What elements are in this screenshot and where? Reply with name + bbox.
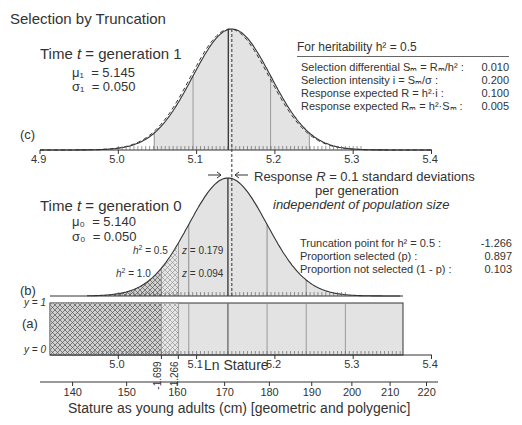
panel-c-tick-label: 5.3 [344,153,359,165]
stature-tick-label: 140 [64,386,82,398]
generation-1-label: Time t = generation 1 [40,45,182,62]
panel-a-tick-label: 5.4 [423,358,438,370]
stature-tick-label: 200 [343,386,361,398]
panel-a-tick-label: 5.0 [109,358,124,370]
row-label: Proportion not selected (1 - p) : [300,263,452,276]
panel-c-tick-label: 5.1 [188,153,203,165]
stature-tick-label: 180 [260,386,278,398]
row-value: 0.103 [484,263,512,276]
panel-a-tick-label: 5.1 [188,358,203,370]
row-value: 0.005 [481,100,509,113]
panel-c-tick-label: 5.4 [423,153,438,165]
stature-tick-label: 170 [216,386,234,398]
row-label: Response expected Rₘ = h²·Sₘ : [301,100,463,113]
truncation-tick-label: -1.699 [152,361,163,389]
stature-tick-label: 160 [168,386,186,398]
row-value: -1.266 [481,237,512,250]
sigma-0: σ₀ = 0.050 [72,229,136,244]
row-value: 0.100 [481,87,509,100]
stature-axis-label: Stature as young adults (cm) [geometric … [68,400,410,416]
h2-0.5-label: h2 = 0.5 [133,244,168,256]
chart-title: Selection by Truncation [10,10,166,27]
heritability-header: For heritability h² = 0.5 [297,40,509,57]
row-value: 0.010 [481,61,509,74]
response-line-3: independent of population size [273,197,449,212]
truncation-table: Truncation point for h² = 0.5 :-1.266Pro… [300,237,512,276]
panel-a-tick-label: 5.3 [344,358,359,370]
response-line-2: per generation [315,183,399,198]
row-value: 0.200 [481,74,509,87]
row-label: Selection intensity i = Sₘ/σ : [301,74,438,87]
panel-c-tick-label: 5.0 [109,153,124,165]
panel-a-tick-label: 5.2 [266,358,281,370]
panel-a-label: (a) [22,316,38,331]
panel-b-label: (b) [20,283,36,298]
z-0.179-label: z = 0.179 [182,245,223,256]
stature-tick-label: 190 [303,386,321,398]
heritability-row: Selection intensity i = Sₘ/σ :0.200 [301,74,509,87]
row-label: Response expected R = h²·i : [301,87,444,100]
response-line-1: Response R = 0.1 standard deviations [254,169,475,184]
heritability-row: Response expected Rₘ = h²·Sₘ :0.005 [301,100,509,113]
mu-1: μ₁ = 5.145 [72,65,135,80]
mu-0: μ₀ = 5.140 [72,214,136,229]
z-0.094-label: z = 0.094 [182,268,223,279]
row-label: Proportion selected (p) : [300,250,417,263]
stature-tick-label: 220 [418,386,436,398]
generation-0-label: Time t = generation 0 [40,197,182,214]
axes [40,382,438,386]
panel-c-label: (c) [20,127,35,142]
heritability-row: Response expected R = h²·i :0.100 [301,87,509,100]
truncation-row: Proportion selected (p) :0.897 [300,250,512,263]
ln-stature-label: Ln Stature [204,357,269,373]
y1-label: y = 1 [24,297,46,308]
heritability-row: Selection differential Sₘ = Rₘ/h² :0.010 [301,61,509,74]
stature-tick-label: 150 [118,386,136,398]
panel-c-tick-label: 4.9 [31,153,46,165]
y0-label: y = 0 [24,344,46,355]
row-label: Selection differential Sₘ = Rₘ/h² : [301,61,464,74]
row-label: Truncation point for h² = 0.5 : [300,237,441,250]
panel-c-tick-label: 5.2 [266,153,281,165]
heritability-table: For heritability h² = 0.5 Selection diff… [297,40,509,113]
sigma-1: σ₁ = 0.050 [72,79,135,94]
truncation-row: Truncation point for h² = 0.5 :-1.266 [300,237,512,250]
panel-a-plot [50,303,432,359]
truncation-row: Proportion not selected (1 - p) :0.103 [300,263,512,276]
row-value: 0.897 [484,250,512,263]
h2-1.0-label: h2 = 1.0 [116,267,151,279]
stature-tick-label: 210 [381,386,399,398]
